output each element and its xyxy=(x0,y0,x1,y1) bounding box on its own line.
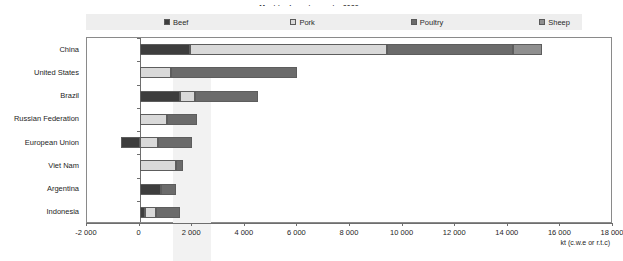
legend-item-beef[interactable]: Beef xyxy=(164,18,188,27)
legend-label: Beef xyxy=(173,18,188,27)
x-axis-tick-label: -2 000 xyxy=(75,228,96,237)
x-axis-tick-label: 14 000 xyxy=(495,228,518,237)
x-axis-unit-label: kt (c.w.e or r.t.c) xyxy=(561,239,610,246)
x-axis-tick-label: 16 000 xyxy=(548,228,571,237)
chart-title-text: Meat trade: net exports, 2029 xyxy=(259,3,358,6)
chart-row xyxy=(87,38,611,61)
x-axis-tick-label: 12 000 xyxy=(443,228,466,237)
chart-row xyxy=(87,154,611,177)
legend-label: Sheep xyxy=(548,18,570,27)
category-label-china: China xyxy=(59,45,79,55)
x-axis-tick-label: 6 000 xyxy=(287,228,306,237)
x-axis-tick xyxy=(139,223,140,226)
category-label-argentina: Argentina xyxy=(47,184,79,194)
category-label-brazil: Brazil xyxy=(60,91,79,101)
x-axis-tick xyxy=(296,223,297,226)
x-axis-tick xyxy=(454,223,455,226)
chart-legend: BeefPorkPoultrySheep xyxy=(86,14,582,30)
x-axis-tick-label: 18 000 xyxy=(601,228,623,237)
chart-row xyxy=(87,108,611,131)
x-axis-tick xyxy=(349,223,350,226)
x-axis-tick xyxy=(244,223,245,226)
legend-item-poultry[interactable]: Poultry xyxy=(411,18,443,27)
x-axis-tick xyxy=(559,223,560,226)
chart-row xyxy=(87,131,611,154)
chart-row xyxy=(87,201,611,224)
x-axis-tick xyxy=(86,223,87,226)
legend-label: Pork xyxy=(299,18,314,27)
category-label-indonesia: Indonesia xyxy=(46,207,79,217)
x-axis: -2 00002 0004 0006 0008 00010 00012 0001… xyxy=(86,223,612,224)
legend-item-sheep[interactable]: Sheep xyxy=(539,18,570,27)
category-label-european-union: European Union xyxy=(25,138,79,148)
chart-title: Meat trade: net exports, 2029 xyxy=(0,0,618,6)
plot-inner: ChinaUnited StatesBrazilRussian Federati… xyxy=(87,38,611,222)
x-axis-tick-label: 10 000 xyxy=(390,228,413,237)
category-label-viet-nam: Viet Nam xyxy=(48,161,79,171)
category-label-united-states: United States xyxy=(34,68,79,78)
x-axis-tick-label: 4 000 xyxy=(234,228,253,237)
x-axis-tick xyxy=(612,223,613,226)
chart-row xyxy=(87,178,611,201)
x-axis-tick xyxy=(191,223,192,226)
plot-area: ChinaUnited StatesBrazilRussian Federati… xyxy=(86,37,612,223)
x-axis-tick-label: 8 000 xyxy=(340,228,359,237)
chart-row xyxy=(87,61,611,84)
x-axis-tick xyxy=(402,223,403,226)
legend-label: Poultry xyxy=(420,18,443,27)
x-axis-tick xyxy=(507,223,508,226)
x-axis-tick-label: 0 xyxy=(137,228,141,237)
x-axis-tick-label: 2 000 xyxy=(182,228,201,237)
legend-swatch-poultry-icon xyxy=(411,19,417,25)
legend-swatch-beef-icon xyxy=(164,19,170,25)
chart-row xyxy=(87,85,611,108)
legend-item-pork[interactable]: Pork xyxy=(290,18,314,27)
category-label-russian-federation: Russian Federation xyxy=(14,114,79,124)
legend-swatch-sheep-icon xyxy=(539,19,545,25)
legend-swatch-pork-icon xyxy=(290,19,296,25)
